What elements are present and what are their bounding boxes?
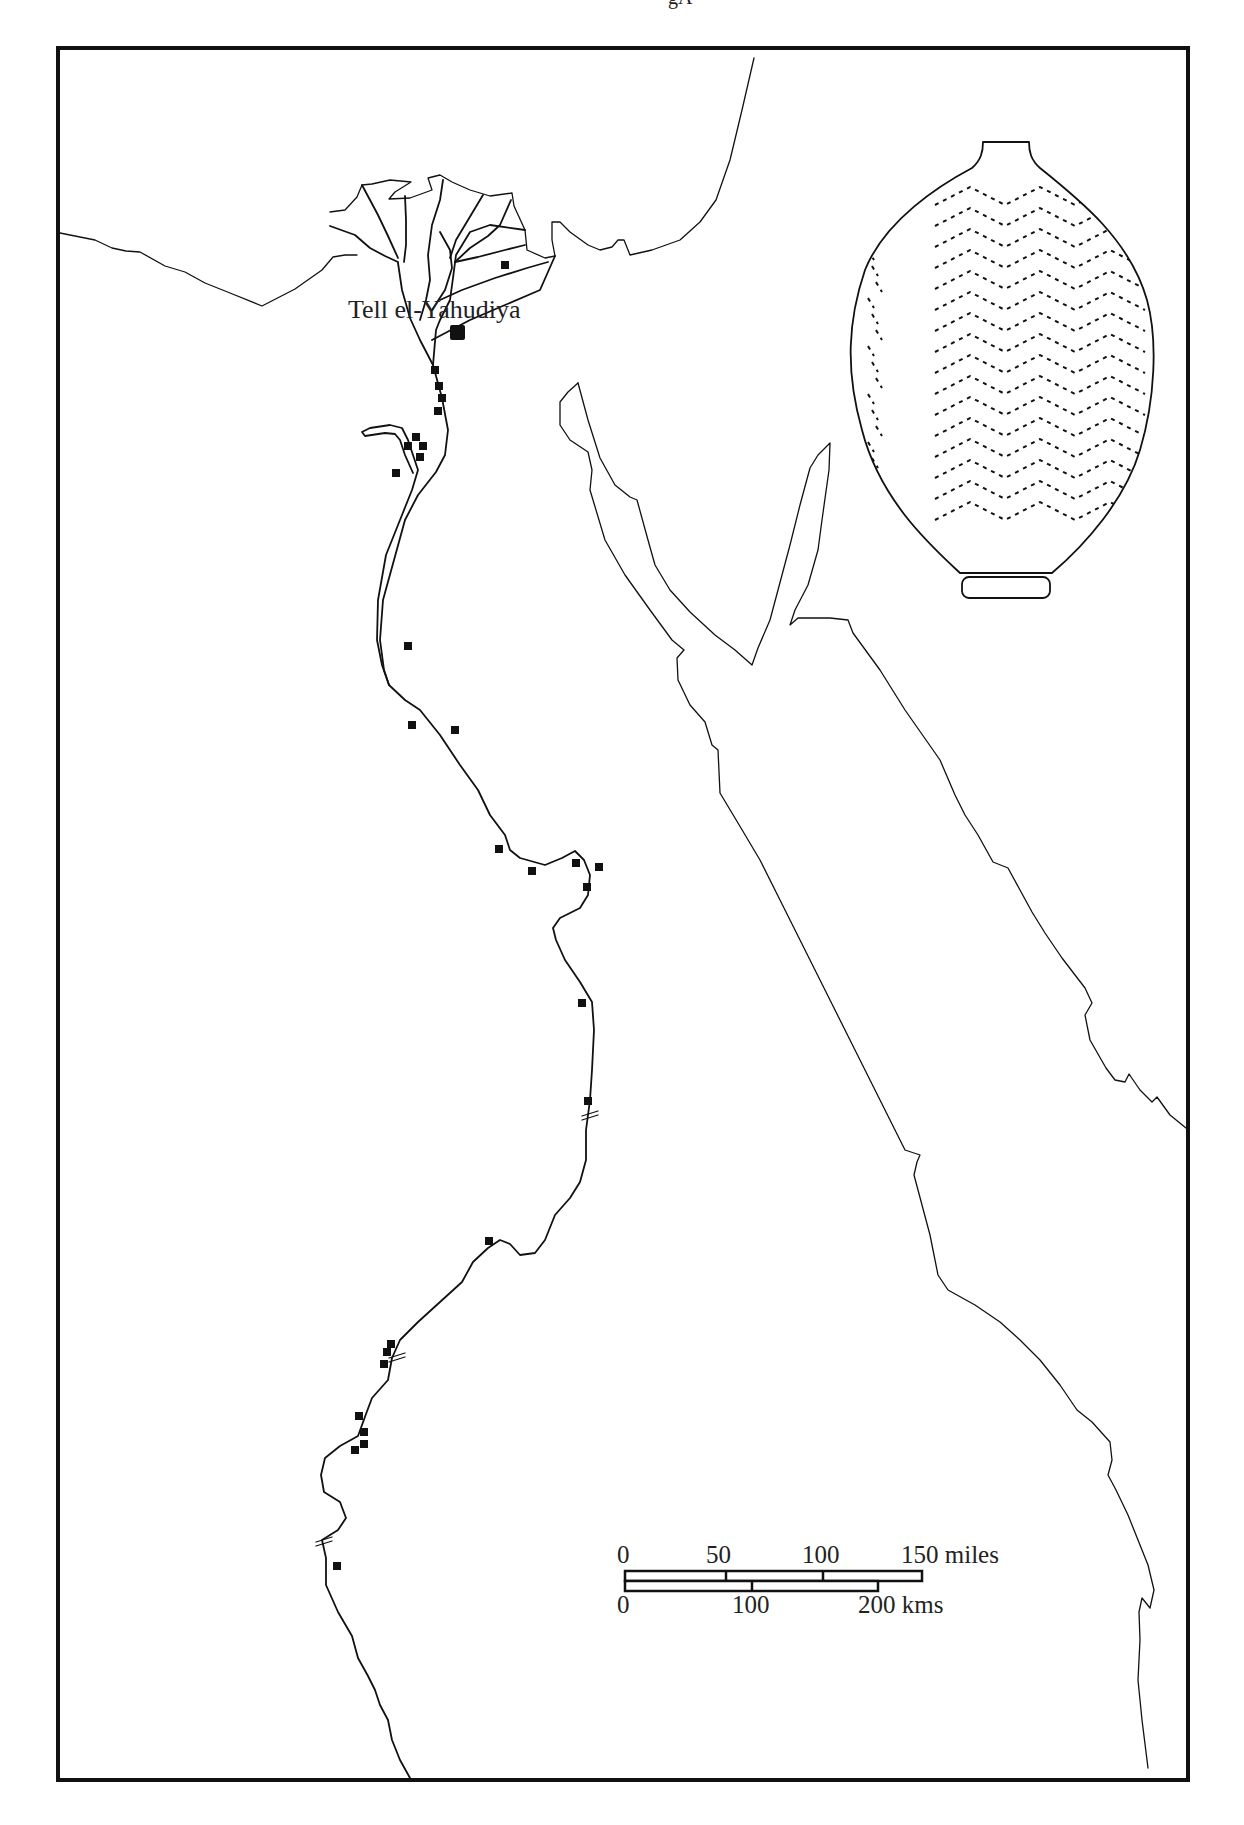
delta-branch-8 (455, 245, 525, 262)
site-marker-icon (408, 721, 416, 729)
rivers (321, 180, 594, 1778)
site-marker-icon (434, 407, 442, 415)
mediterranean-west-coast (60, 233, 357, 306)
site-marker-icon (431, 366, 439, 374)
site-marker-icon (485, 1237, 493, 1245)
chevron-row (935, 481, 1145, 499)
cataract-icon (582, 1111, 598, 1120)
site-label-tell-el-yahudiya: Tell el-Yahudiya (348, 295, 521, 324)
site-marker-icon (419, 442, 427, 450)
chevron-row (935, 439, 1145, 457)
miles-scale-bar (625, 1571, 922, 1581)
site-marker-icon (595, 863, 603, 871)
site-marker-icon (583, 883, 591, 891)
gulf-of-suez-west (560, 383, 1154, 1768)
nile-main (321, 263, 594, 1778)
juglet-base-ring (962, 577, 1050, 598)
chevron-row (935, 397, 1145, 415)
chevron-row (935, 334, 1145, 352)
site-marker-icon (333, 1562, 341, 1570)
chevron-row (935, 271, 1145, 289)
chevron-row (935, 292, 1145, 310)
miles-scale-label: 50 (706, 1541, 731, 1568)
kms-scale-label: 0 (617, 1591, 630, 1618)
site-marker-icon (528, 867, 536, 875)
site-marker-icon (404, 642, 412, 650)
site-marker-icon (380, 1360, 388, 1368)
miles-scale-label: 0 (617, 1541, 630, 1568)
chevron-row (935, 376, 1145, 394)
site-marker-icon (392, 469, 400, 477)
miles-scale-label: 100 (802, 1541, 840, 1568)
chevron-row (935, 208, 1145, 226)
site-marker-icon (360, 1440, 368, 1448)
chevron-row (935, 250, 1145, 268)
chevron-row (935, 355, 1145, 373)
site-marker-icon (351, 1446, 359, 1454)
site-marker-icon (416, 453, 424, 461)
site-marker-icon (404, 442, 412, 450)
site-markers (333, 261, 603, 1570)
chevron-row (935, 313, 1145, 331)
cataract-icon (389, 1353, 405, 1362)
site-marker-icon (383, 1348, 391, 1356)
juglet-illustration (851, 142, 1154, 598)
chevron-row (935, 418, 1145, 436)
site-marker-icon (501, 261, 509, 269)
sinai-north-coast (552, 58, 754, 256)
chevron-row (935, 460, 1145, 478)
site-marker-icon (451, 726, 459, 734)
site-marker-icon (584, 1097, 592, 1105)
juglet-incised-chevron-pattern (868, 187, 1145, 532)
kms-scale-label: 200 kms (858, 1591, 943, 1618)
juglet-body-outline (851, 142, 1154, 573)
coastlines (60, 58, 1186, 1768)
cataract-markers (316, 1111, 598, 1546)
miles-scale-label: 150 miles (901, 1541, 999, 1568)
delta-branch-7 (455, 200, 511, 262)
tell-el-yahudiya-site: Tell el-Yahudiya (348, 295, 521, 340)
site-marker-icon (572, 859, 580, 867)
delta-branch-3 (404, 196, 406, 262)
gulf-of-suez-east (578, 383, 1186, 1128)
delta-branch-6 (450, 195, 483, 258)
site-marker-icon (435, 382, 443, 390)
site-marker-icon (578, 999, 586, 1007)
map-frame (58, 48, 1188, 1780)
delta-branch-2 (362, 185, 398, 258)
site-marker-icon (412, 433, 420, 441)
site-marker-icon (387, 1340, 395, 1348)
scale-bar: 050100150 miles0100200 kms (617, 1541, 999, 1618)
chevron-row (935, 187, 1145, 205)
site-marker-icon (495, 845, 503, 853)
highlight-site-square-icon (450, 325, 465, 340)
kms-scale-label: 100 (732, 1591, 770, 1618)
egypt-map: Tell el-Yahudiya 050100150 miles0100200 … (0, 0, 1244, 1825)
delta-rosetta (330, 226, 398, 262)
site-marker-icon (355, 1412, 363, 1420)
site-marker-icon (438, 394, 446, 402)
site-marker-icon (360, 1428, 368, 1436)
